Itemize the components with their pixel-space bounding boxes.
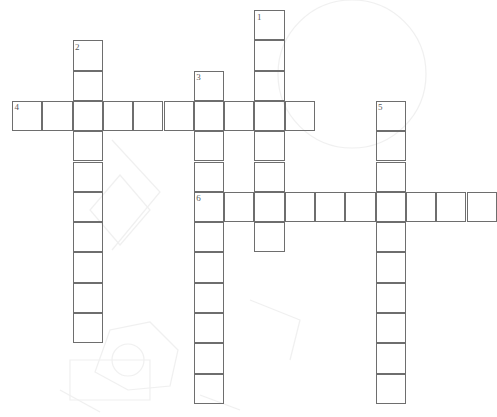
- crossword-cell[interactable]: [73, 101, 103, 131]
- crossword-cell[interactable]: [73, 71, 103, 101]
- crossword-cell[interactable]: [224, 192, 254, 222]
- crossword-cell[interactable]: [194, 222, 224, 252]
- crossword-cell[interactable]: [376, 283, 406, 313]
- crossword-cell[interactable]: [194, 343, 224, 373]
- crossword-cell[interactable]: [194, 192, 224, 222]
- crossword-cell[interactable]: [73, 313, 103, 343]
- crossword-cell[interactable]: [103, 101, 133, 131]
- crossword-cell[interactable]: [376, 222, 406, 252]
- crossword-cell[interactable]: [12, 101, 42, 131]
- crossword-cell[interactable]: [315, 192, 345, 222]
- crossword-cell[interactable]: [254, 71, 284, 101]
- crossword-cell[interactable]: [164, 101, 194, 131]
- crossword-cell[interactable]: [42, 101, 72, 131]
- crossword-cell[interactable]: [194, 71, 224, 101]
- crossword-cell[interactable]: [254, 10, 284, 40]
- crossword-cell[interactable]: [224, 101, 254, 131]
- crossword-cell[interactable]: [254, 40, 284, 70]
- crossword-cell[interactable]: [376, 192, 406, 222]
- crossword-cell[interactable]: [285, 101, 315, 131]
- crossword-cell[interactable]: [376, 162, 406, 192]
- crossword-cell[interactable]: [376, 313, 406, 343]
- crossword-cell[interactable]: [376, 343, 406, 373]
- crossword-cell[interactable]: [376, 101, 406, 131]
- crossword-cell[interactable]: [467, 192, 497, 222]
- crossword-cell[interactable]: [376, 252, 406, 282]
- crossword-cell[interactable]: [254, 131, 284, 161]
- crossword-cell[interactable]: [345, 192, 375, 222]
- crossword-cell[interactable]: [73, 222, 103, 252]
- crossword-cell[interactable]: [73, 40, 103, 70]
- crossword-cell[interactable]: [376, 374, 406, 404]
- crossword-cell[interactable]: [73, 192, 103, 222]
- crossword-cell[interactable]: [194, 252, 224, 282]
- crossword-cell[interactable]: [133, 101, 163, 131]
- crossword-cell[interactable]: [254, 222, 284, 252]
- crossword-cell[interactable]: [376, 131, 406, 161]
- crossword-cell[interactable]: [194, 101, 224, 131]
- crossword-cell[interactable]: [436, 192, 466, 222]
- crossword-cell[interactable]: [254, 162, 284, 192]
- crossword-cell[interactable]: [254, 192, 284, 222]
- crossword-cell[interactable]: [194, 162, 224, 192]
- crossword-cell[interactable]: [254, 101, 284, 131]
- crossword-cell[interactable]: [194, 313, 224, 343]
- crossword-cell[interactable]: [73, 131, 103, 161]
- crossword-cell[interactable]: [73, 252, 103, 282]
- crossword-cell[interactable]: [194, 283, 224, 313]
- crossword-cell[interactable]: [194, 131, 224, 161]
- crossword-cell[interactable]: [406, 192, 436, 222]
- crossword-cell[interactable]: [73, 162, 103, 192]
- crossword-cell[interactable]: [73, 283, 103, 313]
- crossword-cell[interactable]: [194, 374, 224, 404]
- crossword-cell[interactable]: [285, 192, 315, 222]
